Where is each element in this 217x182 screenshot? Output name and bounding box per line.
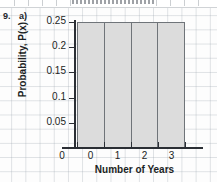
y-tick-label: 0.15 xyxy=(24,65,66,76)
x-tick-mark xyxy=(131,142,132,148)
y-tick-mark xyxy=(69,123,75,124)
x-tick-label: 3 xyxy=(162,150,182,161)
y-tick-label: 0.05 xyxy=(24,116,66,127)
x-tick-mark xyxy=(185,142,186,148)
x-axis-line xyxy=(62,147,203,149)
probability-histogram: Probability, P(x) 0.050.10.150.20.25 012… xyxy=(0,0,217,182)
y-tick-mark xyxy=(69,72,75,73)
x-tick-label: 1 xyxy=(108,150,128,161)
bar xyxy=(157,22,185,148)
y-tick-mark xyxy=(69,22,75,23)
x-tick-mark xyxy=(158,142,159,148)
worksheet-page: 9. a) Probability, P(x) 0.050.10.150.20.… xyxy=(0,0,217,182)
y-tick-label: 0.25 xyxy=(24,15,66,26)
x-tick-label: 2 xyxy=(135,150,155,161)
x-axis-title: Number of Years xyxy=(62,164,207,175)
bar xyxy=(104,22,132,148)
bar-series xyxy=(77,22,185,148)
y-tick-mark xyxy=(69,47,75,48)
bar xyxy=(131,22,159,148)
y-tick-label: 0.1 xyxy=(24,91,66,102)
y-tick-label: 0.2 xyxy=(24,40,66,51)
bar xyxy=(77,22,105,148)
y-axis-line xyxy=(74,20,76,149)
x-tick-mark xyxy=(77,142,78,148)
y-tick-mark xyxy=(69,98,75,99)
x-tick-label: 0 xyxy=(81,150,101,161)
x-axis-origin-label: 0 xyxy=(55,150,69,161)
x-tick-mark xyxy=(104,142,105,148)
